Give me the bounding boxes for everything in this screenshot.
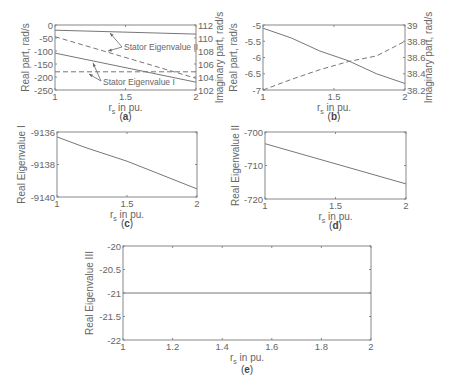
chart-panel-b: 11.52-5-5.5-6-6.5-73938.838.638.438.2Ima… — [228, 12, 434, 122]
y-axis-label: Real Eigenvalue II — [230, 125, 241, 206]
y-tick-label: -50 — [39, 33, 53, 44]
y-tick-label: -150 — [34, 59, 53, 70]
x-tick-label: 1.5 — [327, 91, 340, 102]
data-series-line — [55, 30, 196, 34]
x-tick-label: 1.2 — [166, 341, 179, 352]
y-right-tick-label: 102 — [198, 85, 214, 96]
x-tick-label: 2 — [403, 200, 408, 211]
chart-panel-e: 11.21.41.61.82-20-20.5-21-21.5-22Real Ei… — [84, 241, 374, 376]
x-axis-label: rs in pu. — [230, 352, 264, 365]
y-tick-label: -6.5 — [245, 68, 261, 79]
y-axis-label: Real part, rad/s — [228, 23, 239, 91]
y-tick-label: -720 — [244, 194, 263, 205]
y-right-tick-label: 104 — [198, 72, 214, 83]
y-axis-label: Real Eigenvalue III — [84, 251, 95, 335]
y-tick-label: -9138 — [31, 159, 55, 170]
y-tick-label: -22 — [107, 335, 121, 346]
x-tick-label: 1.8 — [315, 341, 328, 352]
y-tick-label: -5 — [253, 20, 261, 31]
x-tick-label: 1.5 — [120, 198, 133, 209]
panel-caption: (c) — [121, 218, 133, 229]
x-tick-label: 1.5 — [119, 91, 132, 102]
data-series-line — [263, 28, 405, 83]
y-tick-label: -200 — [34, 72, 53, 83]
axes-frame — [263, 25, 405, 90]
y-tick-label: -5.5 — [245, 36, 261, 47]
chart-panel-a: 11.520-50-100-150-200-250112110108106104… — [20, 12, 225, 122]
chart-panel-c: 11.52-9136-9138-9140Real Eigenvalue Irs … — [16, 125, 200, 229]
x-tick-label: 1.4 — [216, 341, 229, 352]
y-axis-label: Real Eigenvalue I — [16, 125, 27, 203]
y-right-tick-label: 112 — [198, 20, 213, 31]
axes-frame — [265, 132, 406, 199]
x-tick-label: 1 — [262, 200, 267, 211]
y-tick-label: -21.5 — [99, 311, 121, 322]
y-right-tick-label: 108 — [198, 46, 214, 57]
y-right-tick-label: 110 — [198, 33, 213, 44]
figure-canvas: 11.520-50-100-150-200-250112110108106104… — [0, 0, 452, 392]
x-tick-label: 1 — [52, 91, 57, 102]
x-tick-label: 1 — [54, 198, 59, 209]
x-tick-label: 1 — [120, 341, 125, 352]
data-series-line — [265, 144, 406, 184]
y-tick-label: -7 — [253, 85, 261, 96]
panel-caption: (e) — [241, 364, 253, 375]
chart-panel-d: 11.52-700-710-720Real Eigenvalue IIrs in… — [230, 125, 409, 231]
y-right-tick-label: 39 — [407, 20, 418, 31]
x-tick-label: 1.5 — [329, 200, 342, 211]
x-tick-label: 2 — [368, 341, 373, 352]
y-tick-label: -6 — [253, 52, 261, 63]
axes-frame — [57, 132, 197, 197]
y-tick-label: -9140 — [31, 192, 55, 203]
y-tick-label: -700 — [244, 127, 263, 138]
arrow-icon — [108, 48, 112, 51]
x-tick-label: 2 — [194, 198, 199, 209]
panel-caption: (a) — [119, 111, 131, 122]
data-series-line — [263, 41, 405, 90]
x-tick-label: 1.6 — [265, 341, 278, 352]
panel-caption: (b) — [328, 111, 341, 122]
y-right-tick-label: 106 — [198, 59, 214, 70]
panel-caption: (d) — [329, 220, 342, 231]
y-tick-label: -710 — [244, 160, 263, 171]
y-tick-label: -250 — [34, 85, 53, 96]
data-series-line — [57, 137, 197, 189]
y-right-axis-label: Imaginary part, rad/s — [423, 12, 434, 104]
x-tick-label: 1 — [260, 91, 265, 102]
annotation-stator-eigenvalue-ii: Stator Eigenvalue II — [124, 42, 198, 52]
y-tick-label: -21 — [107, 288, 121, 299]
y-right-axis-label: Imaginary part, rad/s — [214, 12, 225, 104]
annotation-stator-eigenvalue-i: Stator Eigenvalue I — [103, 77, 175, 87]
y-tick-label: -9136 — [31, 127, 55, 138]
y-tick-label: -100 — [34, 46, 53, 57]
y-tick-label: -20.5 — [99, 264, 121, 275]
y-axis-label: Real part, rad/s — [20, 23, 31, 91]
y-tick-label: -20 — [107, 241, 121, 252]
y-tick-label: 0 — [48, 20, 53, 31]
